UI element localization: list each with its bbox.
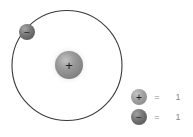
atom-diagram-figure: + − + = 1 − = 1 xyxy=(0,0,193,137)
legend-electron-minus-symbol: − xyxy=(136,112,142,123)
legend-proton-equals: = xyxy=(154,92,159,102)
legend-electron-equals: = xyxy=(154,112,159,122)
electron-minus-symbol: − xyxy=(24,27,30,38)
legend-row-proton: + = 1 xyxy=(131,89,181,105)
legend-proton-plus-symbol: + xyxy=(136,92,142,103)
legend-electron-count: 1 xyxy=(175,112,180,122)
legend-proton-count: 1 xyxy=(175,92,180,102)
atom-diagram-canvas: + − + = 1 − = 1 xyxy=(0,0,193,137)
legend-row-electron: − = 1 xyxy=(131,109,181,125)
nucleus-plus-symbol: + xyxy=(65,58,73,73)
